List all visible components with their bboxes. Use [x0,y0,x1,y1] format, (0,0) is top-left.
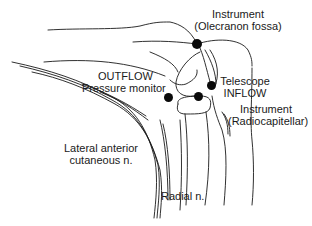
label-instrument-radiocap-line2: (Radiocapitellar) [228,115,304,127]
label-lateral-anterior-cutaneous: Lateral anterior cutaneous n. [62,142,140,166]
label-instrument-olecranon-line2: (Olecranon fossa) [188,20,288,32]
label-lateral-line1: Lateral anterior [62,142,140,154]
label-instrument-olecranon: Instrument (Olecranon fossa) [188,8,288,32]
label-instrument-olecranon-line1: Instrument [188,8,288,20]
label-instrument-radiocap-line1: Instrument [228,103,304,115]
label-lateral-line2: cutaneous n. [62,154,140,166]
label-outflow: OUTFLOW Pressure monitor [82,70,166,94]
portal-radiocapitellar [194,92,203,101]
label-telescope-line2: INFLOW [218,87,272,99]
label-telescope: Telescope INFLOW [218,75,272,99]
portal-olecranon-fossa [192,39,202,49]
label-outflow-line1: OUTFLOW [82,70,166,82]
label-radial-nerve: Radial n. [161,190,204,202]
portal-outflow [164,93,173,102]
label-telescope-line1: Telescope [218,75,272,87]
portal-telescope-inflow [207,81,216,90]
label-instrument-radiocapitellar: Instrument (Radiocapitellar) [228,103,304,127]
label-outflow-line2: Pressure monitor [82,82,166,94]
